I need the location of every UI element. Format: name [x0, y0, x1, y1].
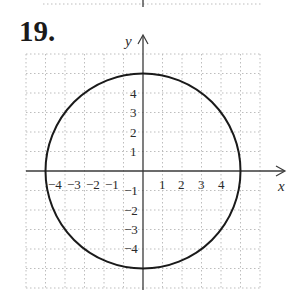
y-tick-label: 3 — [130, 105, 137, 120]
x-tick-label: 1 — [159, 177, 166, 192]
y-tick-label: −3 — [124, 222, 138, 237]
x-axis-label: x — [277, 178, 285, 194]
circle-graph: y x −4 −3 −2 −1 1 2 3 4 4 3 2 1 −1 −2 −3… — [0, 0, 296, 303]
y-tick-label: 4 — [130, 86, 137, 101]
y-tick-label: −2 — [124, 203, 138, 218]
y-tick-label: −4 — [124, 241, 138, 256]
previous-figure-remnant — [43, 0, 262, 7]
y-tick-label: 1 — [130, 144, 137, 159]
x-tick-label: 4 — [218, 177, 225, 192]
y-axis-label: y — [123, 33, 132, 49]
x-tick-label: 3 — [198, 177, 205, 192]
x-tick-label: 2 — [178, 177, 185, 192]
x-tick-label: −1 — [105, 177, 119, 192]
x-tick-label: −4 — [48, 177, 62, 192]
y-tick-label: 2 — [130, 125, 137, 140]
x-tick-label: −2 — [86, 177, 100, 192]
x-tick-label: −3 — [67, 177, 81, 192]
y-tick-label: −1 — [124, 183, 138, 198]
